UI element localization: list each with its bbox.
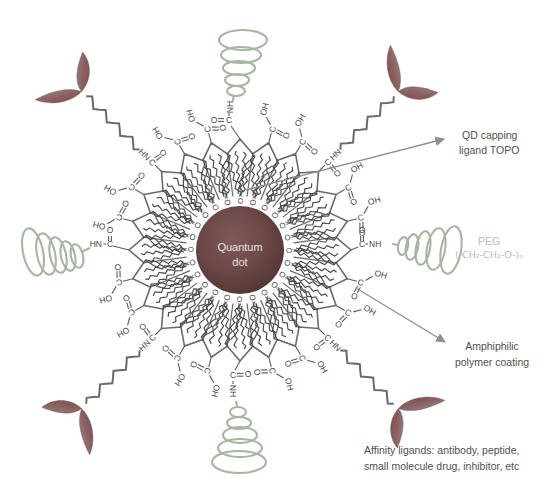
carbon-label: C	[359, 239, 365, 249]
shell-sector: O=PCOHN	[244, 38, 445, 239]
affinity-ligand-ribbon	[364, 38, 446, 120]
bond	[347, 175, 355, 183]
coil-tail	[236, 401, 237, 407]
oxygen-label: O	[245, 369, 252, 379]
ribbon-petal	[385, 408, 410, 449]
bond	[209, 357, 212, 367]
alkyl-chain	[163, 281, 197, 315]
op-label: O=P	[177, 245, 194, 254]
shell-sector: O=PCOHN	[28, 45, 229, 246]
carbon-label: C	[127, 182, 137, 194]
shell-sector: O=PCOOH	[102, 158, 210, 242]
carbon-label: C	[230, 370, 236, 380]
op-label: O=P	[219, 293, 232, 312]
bond	[269, 357, 272, 367]
oxygen-label: O	[282, 358, 294, 369]
oxygen-label: O	[107, 225, 114, 235]
affinity-linker: COHN	[28, 45, 183, 200]
bond	[155, 165, 161, 171]
bond	[318, 328, 324, 334]
ribbon-petal	[41, 395, 82, 420]
op-label: O=P	[178, 229, 197, 242]
ribbon-petal	[78, 408, 95, 455]
bond	[110, 286, 117, 293]
carbon-label: C	[356, 212, 365, 223]
affinity-linker: COHN	[35, 307, 190, 462]
cooh-group: COOH	[92, 192, 138, 238]
amide-linkage-south: CONH	[228, 361, 252, 397]
alkyl-chain	[271, 293, 305, 327]
hydroxyl-label: OH	[292, 112, 307, 128]
affinity-ligand-ribbon	[35, 380, 117, 462]
affinity-linker: COHN	[290, 38, 445, 193]
bond	[113, 246, 129, 250]
bond	[353, 307, 361, 315]
bond	[269, 133, 272, 143]
oxygen-label: O	[113, 262, 122, 273]
hydroxyl-label: OH	[102, 183, 118, 198]
topo-label-line2: ligand TOPO	[459, 144, 519, 156]
oxygen-label: O	[252, 368, 263, 377]
bond	[297, 129, 305, 137]
amphiphilic-label-line1: Amphiphilic	[465, 340, 519, 352]
amide-n-label: NH	[369, 239, 381, 249]
bond	[347, 279, 357, 282]
bond	[155, 328, 161, 334]
ribbon-petal	[398, 80, 439, 105]
op-label: O=P	[283, 230, 302, 243]
peg-label-formula: (-CH₂-CH₂-O-)ₙ	[455, 249, 523, 260]
oxygen-label: O	[121, 198, 130, 209]
hydroxyl-label: OH	[315, 359, 330, 375]
hydroxyl-label: OH	[258, 102, 271, 117]
bond	[208, 375, 215, 382]
bond	[123, 219, 133, 222]
bond	[336, 190, 345, 195]
bond	[231, 126, 240, 139]
amide-linkage-east: CONH	[351, 225, 381, 250]
ribbon-petal	[70, 51, 95, 92]
hydroxyl-label: OH	[209, 383, 222, 398]
hydroxyl-label: OH	[283, 377, 296, 392]
hydroxyl-label: OH	[150, 125, 165, 141]
zigzag-linker-chain	[83, 348, 142, 407]
coil-loop	[227, 86, 245, 96]
bond	[362, 206, 369, 213]
op-label: O=P	[248, 188, 261, 207]
shell-sector: O=PCOOH	[148, 280, 232, 388]
affinity-ligand-ribbon	[28, 45, 110, 127]
peg-annotation: PEG (-CH₂-CH₂-O-)ₙ	[455, 235, 523, 260]
topo-label-line1: QD capping	[462, 129, 518, 141]
hydroxyl-label: OH	[367, 194, 382, 207]
amphiphilic-label-line2: polymer coating	[455, 356, 529, 368]
cooh-group: COOH	[251, 102, 297, 148]
alkyl-chain	[175, 173, 209, 207]
peg-label-line1: PEG	[478, 235, 500, 247]
shell-sector: O=PCOHN	[251, 254, 452, 455]
quantum-dot-core: Quantum dot	[196, 206, 284, 294]
ribbon-petal	[385, 45, 402, 92]
hydroxyl-label: OH	[98, 293, 113, 306]
ribbon-petal	[35, 88, 82, 105]
quantum-dot-label-line2: dot	[232, 256, 247, 268]
op-label: O=P	[178, 257, 197, 270]
oxygen-label: O	[348, 196, 359, 208]
oxygen-label: O	[160, 343, 172, 354]
amide-n-label: NH	[225, 101, 235, 113]
bond	[336, 306, 345, 311]
bond	[296, 145, 301, 154]
shell-sector: O=PCOOH	[247, 112, 331, 220]
bond	[235, 361, 240, 370]
coil-tail	[392, 244, 399, 245]
alkyl-chain	[283, 282, 320, 310]
bond	[180, 346, 185, 355]
amide-linkage-north: CONH	[211, 101, 240, 139]
hydroxyl-label: OH	[362, 302, 378, 317]
hydroxyl-label: OH	[373, 268, 388, 281]
alkyl-chain	[283, 185, 317, 219]
coil-loop	[218, 439, 262, 457]
bond	[276, 372, 283, 379]
alkyl-chain	[180, 293, 208, 330]
cooh-group: COOH	[342, 261, 388, 307]
affinity-annotation: Affinity ligands: antibody, peptide, sma…	[364, 444, 519, 472]
op-label: O=P	[247, 293, 260, 312]
